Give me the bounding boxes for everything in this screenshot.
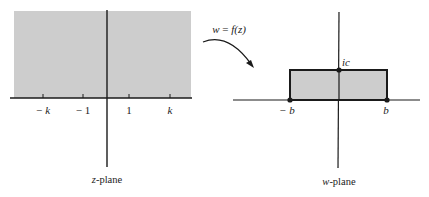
mapping-arrow: w = f(z) <box>203 23 254 68</box>
point-ic <box>336 67 341 72</box>
label-b: b <box>383 104 389 116</box>
z-tick-label-minus-k: −k <box>36 104 51 116</box>
w-plane: − b b ic w-plane <box>233 12 420 187</box>
conformal-map-diagram: −k −1 1 k z-plane w = f(z) − b b ic <box>0 0 429 197</box>
arrowhead-icon <box>246 60 254 68</box>
z-plane: −k −1 1 k z-plane <box>10 10 192 185</box>
z-tick-label-k: k <box>168 104 174 116</box>
label-ic: ic <box>342 56 350 68</box>
z-tick-label-minus-1: −1 <box>76 104 91 116</box>
mapping-label: w = f(z) <box>212 23 246 36</box>
w-plane-caption: w-plane <box>322 176 356 187</box>
label-minus-b: − b <box>279 104 295 116</box>
z-plane-caption: z-plane <box>91 174 123 185</box>
z-plane-shaded-upper-half <box>14 11 191 98</box>
point-minus-b <box>287 97 292 102</box>
point-b <box>384 97 389 102</box>
curved-arrow-icon <box>203 40 251 64</box>
z-tick-label-1: 1 <box>126 104 132 116</box>
